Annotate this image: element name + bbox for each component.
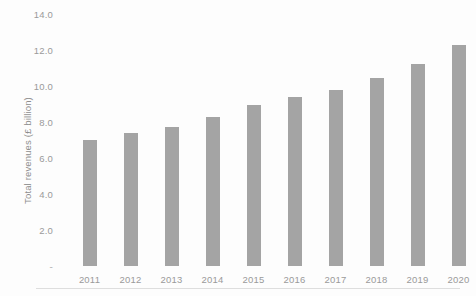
bar-slot: 2013	[151, 14, 192, 266]
bar	[411, 64, 425, 266]
x-axis-tick-label: 2016	[284, 274, 306, 285]
y-axis-tick-label: 8.0	[39, 117, 53, 128]
bar-slot: 2014	[192, 14, 233, 266]
bar-slot: 2020	[438, 14, 476, 266]
bar	[165, 127, 179, 267]
x-axis-tick-label: 2019	[407, 274, 429, 285]
bar-slot: 2016	[274, 14, 315, 266]
y-axis-tick-label: -	[49, 261, 53, 272]
bar-slot: 2015	[233, 14, 274, 266]
x-axis-tick-label: 2014	[202, 274, 224, 285]
x-axis-tick-label: 2011	[79, 274, 100, 285]
bar	[452, 45, 466, 266]
y-axis-tick-label: 2.0	[39, 225, 53, 236]
y-axis-tick-label: 6.0	[39, 153, 53, 164]
bar	[83, 140, 97, 266]
bar-slot: 2018	[356, 14, 397, 266]
plot-area: -2.04.06.08.010.012.014.0 20112012201320…	[60, 14, 470, 266]
y-axis-tick-label: 14.0	[34, 9, 53, 20]
x-axis-tick-label: 2012	[120, 274, 142, 285]
bar-slot: 2011	[69, 14, 110, 266]
y-axis-tick-label: 4.0	[39, 189, 53, 200]
y-axis-tick-label: 12.0	[34, 45, 53, 56]
x-axis-tick-label: 2017	[325, 274, 347, 285]
x-axis-tick-label: 2018	[366, 274, 388, 285]
bar-slot: 2019	[397, 14, 438, 266]
page-rule-divider	[36, 288, 460, 289]
bar	[247, 105, 261, 266]
x-axis-tick-label: 2020	[448, 274, 470, 285]
y-axis-title: Total revenues (£ billion)	[22, 66, 33, 236]
x-axis-tick-label: 2013	[161, 274, 183, 285]
bar	[329, 90, 343, 266]
bar	[124, 133, 138, 266]
bar-slot: 2017	[315, 14, 356, 266]
x-axis-tick-label: 2015	[243, 274, 265, 285]
y-axis-tick-label: 10.0	[34, 81, 53, 92]
bar	[370, 78, 384, 266]
bar	[206, 117, 220, 266]
bar-chart-figure: Total revenues (£ billion) -2.04.06.08.0…	[0, 0, 476, 296]
bar	[288, 97, 302, 266]
bar-slot: 2012	[110, 14, 151, 266]
